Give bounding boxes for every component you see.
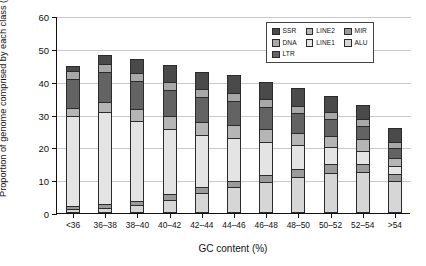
bar-segment-ssr <box>195 72 209 89</box>
x-axis-tick <box>202 213 203 218</box>
legend-item-dna: DNA <box>272 39 297 48</box>
x-axis-tick-label: 50–52 <box>319 220 342 230</box>
bar-segment-line1 <box>227 138 241 181</box>
bar-segment-line1 <box>388 166 402 174</box>
bar-segment-alu <box>356 172 370 213</box>
bar-stack <box>388 16 402 213</box>
legend-label-dna: DNA <box>283 40 297 47</box>
bar-segment-line2 <box>291 133 305 145</box>
legend-swatch-alu <box>344 39 352 47</box>
bar-stack <box>130 16 144 213</box>
legend-item-alu: ALU <box>344 39 368 48</box>
x-axis-tick-label: 42–44 <box>190 220 213 230</box>
bar-segment-dna <box>163 82 177 90</box>
x-axis-tick-label: >54 <box>388 220 402 230</box>
bar-segment-line2 <box>130 109 144 120</box>
legend-swatch-ssr <box>272 28 280 36</box>
bar-segment-line1 <box>356 151 370 164</box>
y-axis-tick-label: 0 <box>44 209 49 220</box>
legend-label-line2: LINE2 <box>316 28 335 35</box>
legend: SSR DNA LTR LINE2 LINE1 M <box>266 22 374 63</box>
bar-segment-mir <box>324 164 338 173</box>
bar-segment-dna <box>66 71 80 79</box>
x-axis-tick-label: 44–46 <box>222 220 245 230</box>
bar-segment-dna <box>259 99 273 107</box>
bar-segment-alu <box>98 208 112 213</box>
x-axis-tick <box>234 213 235 218</box>
x-axis-tick <box>137 213 138 218</box>
bar-segment-dna <box>195 89 209 97</box>
bar-segment-line2 <box>98 102 112 112</box>
x-axis-tick <box>73 213 74 218</box>
x-axis-tick-label: 38–40 <box>126 220 149 230</box>
legend-swatch-dna <box>272 39 280 47</box>
figure: Proportion of genome comprised by each c… <box>0 0 426 266</box>
bar-segment-alu <box>195 193 209 213</box>
bar-segment-ssr <box>291 88 305 105</box>
y-axis-tick <box>52 214 57 215</box>
legend-label-line1: LINE1 <box>316 40 335 47</box>
bar-segment-ssr <box>163 65 177 82</box>
legend-label-ltr: LTR <box>283 51 295 58</box>
bar-segment-line2 <box>324 136 338 148</box>
bar-segment-mir <box>259 175 273 183</box>
legend-item-line1: LINE1 <box>306 39 335 48</box>
x-axis-tick-label: <36 <box>66 220 80 230</box>
bar-segment-line2 <box>195 122 209 134</box>
y-axis-tick <box>52 181 57 182</box>
bar-segment-ssr <box>66 66 80 71</box>
x-axis-tick <box>105 213 106 218</box>
legend-item-mir: MIR <box>344 27 368 36</box>
bar-segment-ssr <box>259 82 273 100</box>
bar-segment-ltr <box>98 72 112 102</box>
y-axis-tick-label: 60 <box>38 12 49 23</box>
legend-column-2: LINE2 LINE1 <box>306 27 335 59</box>
bar-segment-line1 <box>195 135 209 188</box>
bar-segment-mir <box>130 201 144 205</box>
bar-segment-line1 <box>66 116 80 206</box>
bar-segment-ltr <box>324 119 338 135</box>
y-axis-tick-label: 20 <box>38 143 49 154</box>
legend-swatch-line2 <box>306 28 314 36</box>
bar-segment-ltr <box>195 97 209 122</box>
legend-swatch-ltr <box>272 51 280 59</box>
bar-segment-mir <box>66 206 80 209</box>
bar-stack <box>227 16 241 213</box>
bar-segment-dna <box>98 64 112 72</box>
x-axis-tick <box>170 213 171 218</box>
legend-item-ltr: LTR <box>272 50 297 59</box>
bar-segment-dna <box>130 73 144 81</box>
bar-segment-alu <box>227 187 241 213</box>
bar-segment-ltr <box>356 126 370 140</box>
y-axis-tick <box>52 50 57 51</box>
y-axis-tick <box>52 116 57 117</box>
bar-segment-mir <box>356 164 370 173</box>
x-axis-tick-label: 48–50 <box>287 220 310 230</box>
x-axis-tick <box>266 213 267 218</box>
bar-segment-ssr <box>98 55 112 64</box>
x-axis-title: GC content (%) <box>56 243 410 254</box>
bar-segment-alu <box>66 209 80 213</box>
bar-segment-line2 <box>66 108 80 116</box>
bar-segment-dna <box>356 119 370 126</box>
bar-segment-mir <box>195 187 209 193</box>
bar-segment-ltr <box>259 107 273 129</box>
bar-segment-mir <box>227 181 241 188</box>
legend-swatch-line1 <box>306 39 314 47</box>
x-axis-tick-label: 52–54 <box>351 220 374 230</box>
legend-label-mir: MIR <box>355 28 367 35</box>
bar-segment-alu <box>291 177 305 213</box>
y-axis-tick-label: 10 <box>38 176 49 187</box>
bar-segment-mir <box>388 174 402 181</box>
bar-segment-line2 <box>356 139 370 150</box>
legend-column-1: SSR DNA LTR <box>272 27 297 59</box>
bar-segment-ssr <box>227 75 241 93</box>
legend-swatch-mir <box>344 28 352 36</box>
x-axis-tick-label: 40–42 <box>158 220 181 230</box>
bar-segment-ssr <box>356 105 370 119</box>
x-axis-tick-label: 36–38 <box>94 220 117 230</box>
bar-stack <box>163 16 177 213</box>
bar-stack <box>195 16 209 213</box>
bar-segment-ltr <box>66 79 80 108</box>
y-axis-tick-label: 40 <box>38 77 49 88</box>
